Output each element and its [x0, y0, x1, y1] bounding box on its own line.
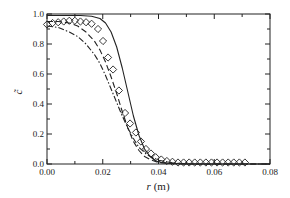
- axis-ticks: [47, 14, 270, 164]
- chart: 0.000.020.040.060.080.00.20.40.60.81.0 r…: [0, 0, 290, 198]
- diamond-marker: [94, 25, 101, 32]
- y-tick-label: 0.8: [33, 39, 45, 49]
- x-tick-label: 0.02: [95, 167, 111, 177]
- diamond-marker: [99, 37, 106, 44]
- y-tick-label: 0.2: [33, 129, 44, 139]
- series-line-dashed: [47, 22, 270, 165]
- y-tick-label: 0.6: [33, 69, 45, 79]
- y-axis-label: c̃: [12, 88, 24, 94]
- axis-tick-labels: 0.000.020.040.060.080.00.20.40.60.81.0: [33, 9, 279, 177]
- x-tick-label: 0.04: [151, 167, 167, 177]
- diamond-marker: [104, 54, 111, 61]
- plot-area: [47, 14, 270, 164]
- y-tick-label: 0.4: [33, 99, 45, 109]
- y-tick-label: 0.0: [33, 159, 45, 169]
- y-tick-label: 1.0: [33, 9, 45, 19]
- plot-frame: [47, 14, 270, 164]
- series-line-solid: [47, 16, 270, 165]
- x-tick-label: 0.08: [262, 167, 278, 177]
- series-line-dash-dot: [47, 26, 270, 164]
- x-tick-label: 0.06: [206, 167, 222, 177]
- diamond-marker: [109, 66, 116, 73]
- x-axis-label: r(m): [146, 180, 170, 193]
- series-group: [43, 16, 270, 167]
